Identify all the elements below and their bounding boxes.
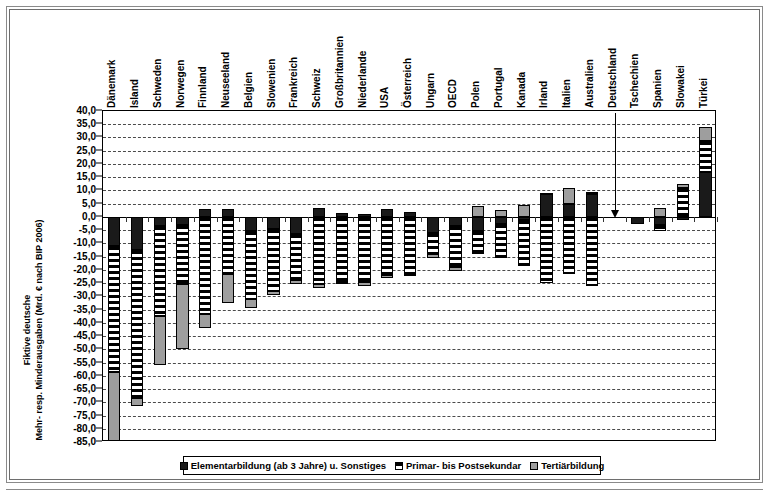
- chart-legend: Elementarbildung (ab 3 Jahre) u. Sonstig…: [183, 456, 601, 475]
- chart-screenshot: Fiktive deutsche Mehr- resp. Minderausga…: [0, 0, 772, 503]
- y-axis-tick-label: -25,0: [73, 277, 96, 288]
- bar-column[interactable]: [290, 111, 302, 440]
- bar-segment-primar-postsekundar: [336, 217, 348, 282]
- legend-item: Elementarbildung (ab 3 Jahre) u. Sonstig…: [180, 460, 386, 471]
- bar-segment-primar-postsekundar: [222, 217, 234, 274]
- bar-segment-tertiaerbildung: [677, 184, 689, 188]
- x-axis-tick-mark: [444, 217, 445, 222]
- caption-rule: [6, 489, 763, 490]
- x-axis-tick-mark: [467, 217, 468, 222]
- x-axis-tick-mark: [603, 217, 604, 222]
- bar-segment-primar-postsekundar: [313, 217, 325, 285]
- bar-column[interactable]: [654, 111, 666, 440]
- bar-column[interactable]: [131, 111, 143, 440]
- bar-segment-tertiaerbildung: [290, 280, 302, 284]
- bar-column[interactable]: [313, 111, 325, 440]
- bar-column[interactable]: [222, 111, 234, 440]
- bar-segment-primar-postsekundar: [131, 250, 143, 398]
- bar-segment-tertiaerbildung: [245, 299, 257, 308]
- bar-column[interactable]: [358, 111, 370, 440]
- y-axis-tick-label: 40,0: [77, 105, 96, 116]
- x-axis-tick-mark: [649, 217, 650, 222]
- bar-segment-tertiaerbildung: [267, 291, 279, 295]
- bar-segment-elementarbildung: [472, 217, 484, 232]
- bar-column[interactable]: [586, 111, 598, 440]
- y-axis-tick-label: -10,0: [73, 237, 96, 248]
- bar-segment-primar-postsekundar: [427, 233, 439, 254]
- bar-column[interactable]: [427, 111, 439, 440]
- bar-column[interactable]: [472, 111, 484, 440]
- y-axis-tick-label: 15,0: [77, 171, 96, 182]
- bar-segment-primar-postsekundar: [563, 217, 575, 274]
- bar-column[interactable]: [381, 111, 393, 440]
- bar-column[interactable]: [540, 111, 552, 440]
- y-axis-tick-label: 10,0: [77, 184, 96, 195]
- x-axis-category-label: Großbritannien: [334, 0, 345, 108]
- y-axis-tick-label: 30,0: [77, 131, 96, 142]
- bar-column[interactable]: [176, 111, 188, 440]
- bar-segment-tertiaerbildung: [563, 188, 575, 204]
- x-axis-category-label: Island: [129, 0, 140, 108]
- bar-column[interactable]: [449, 111, 461, 440]
- bar-segment-tertiaerbildung: [518, 205, 530, 217]
- bar-column[interactable]: [631, 111, 643, 440]
- bar-segment-elementarbildung: [290, 217, 302, 234]
- bar-column[interactable]: [495, 111, 507, 440]
- bar-segment-elementarbildung: [245, 217, 257, 232]
- x-axis-tick-mark: [126, 217, 127, 222]
- bar-column[interactable]: [699, 111, 711, 440]
- bar-column[interactable]: [518, 111, 530, 440]
- bar-segment-elementarbildung: [563, 204, 575, 217]
- bar-column[interactable]: [245, 111, 257, 440]
- bar-column[interactable]: [199, 111, 211, 440]
- bar-segment-primar-postsekundar: [108, 246, 120, 372]
- bar-segment-tertiaerbildung: [108, 372, 120, 441]
- bar-segment-tertiaerbildung: [654, 208, 666, 217]
- x-axis-tick-mark: [581, 217, 582, 222]
- bar-column[interactable]: [108, 111, 120, 440]
- bar-column[interactable]: [563, 111, 575, 440]
- reference-arrow-head: [611, 210, 619, 218]
- x-axis-tick-mark: [217, 217, 218, 222]
- x-axis-category-label: Finnland: [197, 0, 208, 108]
- bar-segment-primar-postsekundar: [245, 231, 257, 299]
- x-axis-category-label: Portugal: [493, 0, 504, 108]
- legend-swatch-icon: [395, 462, 403, 470]
- legend-label: Elementarbildung (ab 3 Jahre) u. Sonstig…: [191, 460, 386, 471]
- y-axis-tick-label: -65,0: [73, 383, 96, 394]
- x-axis-category-label: Belgien: [243, 0, 254, 108]
- bar-segment-tertiaerbildung: [404, 274, 416, 277]
- plot-area: [102, 110, 716, 441]
- x-axis-category-label: Schweiz: [311, 0, 322, 108]
- bar-column[interactable]: [154, 111, 166, 440]
- bar-segment-elementarbildung: [586, 194, 598, 217]
- x-axis-tick-mark: [353, 217, 354, 222]
- y-axis-tick-label: 5,0: [82, 197, 96, 208]
- bar-segment-primar-postsekundar: [290, 234, 302, 280]
- y-axis-tick-label: 35,0: [77, 118, 96, 129]
- bar-segment-tertiaerbildung: [472, 206, 484, 217]
- x-axis-category-label: Deutschland: [607, 0, 618, 108]
- bar-segment-tertiaerbildung: [427, 254, 439, 258]
- bar-segment-tertiaerbildung: [381, 275, 393, 278]
- bar-segment-tertiaerbildung: [449, 267, 461, 271]
- legend-item: Primar- bis Postsekundar: [395, 460, 521, 471]
- bar-column[interactable]: [677, 111, 689, 440]
- bar-column[interactable]: [267, 111, 279, 440]
- y-axis-tick-label: -20,0: [73, 263, 96, 274]
- legend-item: Tertiärbildung: [530, 460, 604, 471]
- bar-segment-tertiaerbildung: [495, 210, 507, 217]
- bar-column[interactable]: [404, 111, 416, 440]
- bar-segment-elementarbildung: [108, 217, 120, 246]
- bar-segment-elementarbildung: [699, 172, 711, 217]
- x-axis-tick-mark: [490, 217, 491, 222]
- bar-column[interactable]: [336, 111, 348, 440]
- y-axis-tick-label: 20,0: [77, 157, 96, 168]
- legend-swatch-icon: [530, 462, 538, 470]
- bar-segment-elementarbildung: [176, 217, 188, 225]
- x-axis-tick-mark: [558, 217, 559, 222]
- y-axis-tick-label: -30,0: [73, 290, 96, 301]
- bar-segment-elementarbildung: [313, 208, 325, 217]
- bar-segment-primar-postsekundar: [699, 141, 711, 171]
- x-axis-category-label: Kanada: [516, 0, 527, 108]
